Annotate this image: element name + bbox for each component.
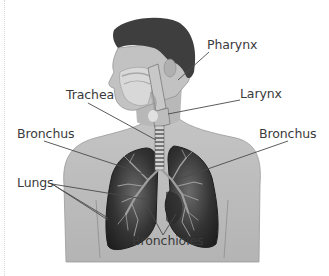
label-bronchus-right: Bronchus	[259, 128, 316, 141]
trachea-rings	[155, 126, 164, 170]
label-larynx: Larynx	[240, 88, 282, 101]
respiratory-diagram: Pharynx Trachea Larynx Bronchus Bronchus…	[0, 0, 329, 276]
ear-shape	[164, 59, 176, 77]
label-trachea: Trachea	[66, 89, 114, 102]
label-bronchus-left: Bronchus	[17, 128, 74, 141]
label-pharynx: Pharynx	[207, 39, 257, 52]
label-bronchioles: Bronchioles	[132, 235, 204, 248]
label-lungs: Lungs	[17, 177, 54, 190]
